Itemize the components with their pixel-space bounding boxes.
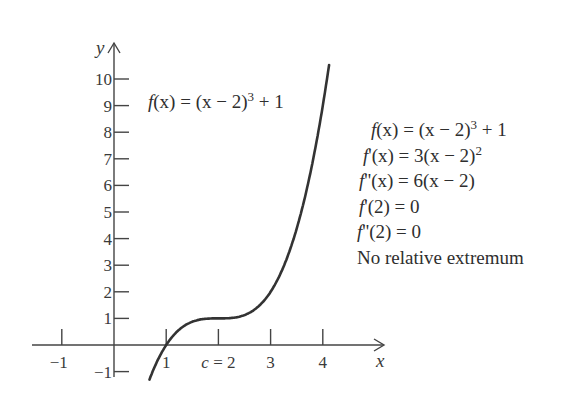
fact-second-derivative: f''(x) = 6(x − 2) [357,170,524,196]
y-tick-label: 2 [104,283,113,302]
y-tick-label: 9 [104,97,113,116]
x-tick-label: 3 [266,353,275,372]
y-axis-label: y [94,37,105,58]
y-tick-label: 4 [104,230,113,249]
fact-second-derivative-at-c: f''(2) = 0 [357,221,524,247]
x-tick-label: c = 2 [201,353,235,372]
fact-text: '(x) = 3(x − 2) [368,145,475,166]
fact-first-derivative-at-c: f'(2) = 0 [357,196,524,222]
fact-tail: + 1 [477,119,507,140]
fact-first-derivative: f'(x) = 3(x − 2)2 [357,145,524,171]
curve-label: f(x) = (x − 2)3 + 1 [148,92,284,111]
y-tick-label: 1 [104,309,113,328]
fact-text: (x) = (x − 2) [376,119,470,140]
y-tick-label: 8 [104,123,113,142]
y-tick-label: 7 [104,150,113,169]
y-tick-label: 3 [104,256,113,275]
x-tick-label: −1 [50,353,68,372]
fact-conclusion: No relative extremum [357,247,524,273]
fact-function: f(x) = (x − 2)3 + 1 [357,119,524,145]
tick-labels: −11c = 23410987654321−1 [50,70,328,382]
x-tick-label: 1 [162,353,171,372]
x-axis-label: x [375,350,385,371]
fact-text: ''(2) = 0 [362,221,421,242]
fact-exponent: 2 [475,143,482,158]
fact-text: ''(x) = 6(x − 2) [364,170,475,191]
derivative-facts: f(x) = (x − 2)3 + 1 f'(x) = 3(x − 2)2 f'… [357,119,524,272]
y-tick-label: 6 [104,176,113,195]
curve-label-body: (x) = (x − 2) [153,91,247,112]
function-curve [150,65,330,380]
x-tick-label: 4 [319,353,328,372]
fact-text: '(2) = 0 [364,196,419,217]
ticks [62,79,323,372]
y-tick-label: 10 [95,70,112,89]
curve-label-tail: + 1 [254,91,284,112]
y-tick-label: 5 [104,203,113,222]
y-tick-label: −1 [94,363,112,382]
